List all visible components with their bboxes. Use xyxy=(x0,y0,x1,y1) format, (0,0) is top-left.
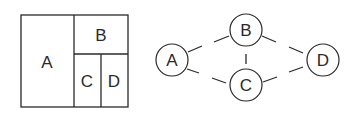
region-c-label: C xyxy=(81,72,93,91)
graph-node-c: C xyxy=(230,69,262,101)
svg-text:B: B xyxy=(240,21,251,40)
edge-a-c xyxy=(187,69,226,83)
graph-node-a: A xyxy=(156,44,188,76)
diagram-canvas: A B C D A B xyxy=(0,0,361,114)
svg-text:D: D xyxy=(317,51,329,70)
region-b-label: B xyxy=(95,26,106,45)
edge-c-d xyxy=(263,67,303,82)
region-a-label: A xyxy=(41,53,53,72)
edge-a-b xyxy=(188,36,229,52)
adjacency-graph: A B C D xyxy=(156,14,339,101)
partition-map: A B C D xyxy=(21,15,128,107)
svg-text:C: C xyxy=(240,76,252,95)
graph-node-b: B xyxy=(230,14,262,46)
graph-node-d: D xyxy=(307,44,339,76)
svg-text:A: A xyxy=(166,51,178,70)
edge-b-d xyxy=(262,36,303,53)
region-d-label: D xyxy=(108,72,120,91)
